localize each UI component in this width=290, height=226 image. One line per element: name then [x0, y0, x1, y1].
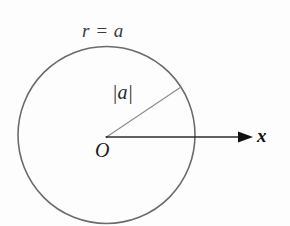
figure-canvas: [0, 0, 290, 226]
x-axis-arrowhead-icon: [238, 132, 253, 143]
circle-equation-label: r = a: [82, 21, 124, 40]
math-figure-circle-diagram: r = a |a| O x: [0, 0, 290, 226]
origin-point: [106, 136, 108, 138]
radius-magnitude-label: |a|: [112, 82, 133, 102]
origin-label: O: [95, 140, 109, 160]
x-axis-label: x: [257, 126, 267, 145]
circle-shape: [18, 47, 195, 224]
